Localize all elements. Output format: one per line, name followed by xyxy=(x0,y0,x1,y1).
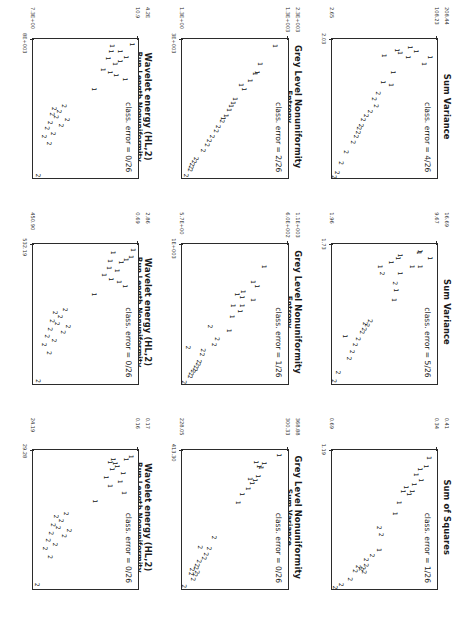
data-point-class-1: 1 xyxy=(110,251,116,255)
y-axis-max-label: 1.1E+003 xyxy=(295,212,301,237)
data-point-class-2: 2 xyxy=(197,545,203,549)
data-point-class-1: 1 xyxy=(381,54,387,58)
scatter-panel: Sum of Squares0.410.340.691.19class. err… xyxy=(305,415,454,620)
panel-title: Grey Level Nonuniformity xyxy=(293,415,303,620)
data-point-class-2: 2 xyxy=(181,584,187,588)
y-axis-min-label: 2.65 xyxy=(329,7,335,18)
data-point-class-1: 1 xyxy=(427,256,433,260)
panel-title: Grey Level Nonuniformity xyxy=(293,209,303,414)
data-point-class-1: 1 xyxy=(106,266,112,270)
data-point-class-2: 2 xyxy=(376,526,382,530)
data-point-class-1: 1 xyxy=(114,269,120,273)
plot-area: 0.410.340.691.19class. error = 1/2611111… xyxy=(331,449,438,590)
data-point-class-1: 1 xyxy=(390,70,396,74)
data-point-class-2: 2 xyxy=(353,135,359,139)
data-point-class-2: 2 xyxy=(379,272,385,276)
data-point-class-1: 1 xyxy=(257,62,263,66)
data-point-class-1: 1 xyxy=(272,44,278,48)
data-point-class-1: 1 xyxy=(130,248,136,252)
y-axis-max-label: 0.41 xyxy=(444,418,450,429)
data-point-class-1: 1 xyxy=(103,476,109,480)
data-point-class-1: 1 xyxy=(416,251,422,255)
classification-error-label: class. error = 0/26 xyxy=(274,513,283,583)
data-point-class-1: 1 xyxy=(388,260,394,264)
data-point-class-2: 2 xyxy=(206,547,212,551)
y-axis-tick xyxy=(287,447,288,451)
data-point-class-1: 1 xyxy=(238,83,244,87)
y-axis-max-label: 0.17 xyxy=(145,418,151,429)
y-axis-tick-label: 0.16 xyxy=(135,418,141,429)
data-point-class-2: 2 xyxy=(211,343,217,347)
figure-rotator: Sum Variance208.44108.232.652.03class. e… xyxy=(0,0,458,626)
data-point-class-2: 2 xyxy=(373,104,379,108)
data-point-class-1: 1 xyxy=(397,272,403,276)
data-point-class-2: 2 xyxy=(331,175,337,179)
data-point-class-2: 2 xyxy=(207,325,213,329)
y-axis-min-label: 1.3E+00 xyxy=(179,7,185,29)
data-point-class-1: 1 xyxy=(237,309,243,313)
data-point-class-2: 2 xyxy=(40,135,46,139)
data-point-class-1: 1 xyxy=(245,487,251,491)
plot-area: 0.170.1624.1929.28class. error = 0/26111… xyxy=(32,449,139,590)
data-point-class-2: 2 xyxy=(214,337,220,341)
x-axis-min-label: 1.73 xyxy=(321,238,327,249)
data-point-class-2: 2 xyxy=(53,115,59,119)
data-point-class-1: 1 xyxy=(99,68,105,72)
data-point-class-2: 2 xyxy=(62,308,68,312)
data-point-class-1: 1 xyxy=(393,288,399,292)
y-axis-tick xyxy=(287,36,288,40)
data-point-class-1: 1 xyxy=(276,453,282,457)
data-point-class-2: 2 xyxy=(392,281,398,285)
classification-error-label: class. error = 0/26 xyxy=(124,513,133,583)
data-point-class-1: 1 xyxy=(107,484,113,488)
data-point-class-2: 2 xyxy=(346,577,352,581)
scatter-panel: Grey Level Nonuniformity2.3E+0031.3E+003… xyxy=(155,4,304,209)
data-point-class-1: 1 xyxy=(229,315,235,319)
data-point-class-1: 1 xyxy=(105,57,111,61)
data-point-class-1: 1 xyxy=(117,480,123,484)
data-point-class-2: 2 xyxy=(213,129,219,133)
data-point-class-1: 1 xyxy=(91,87,97,91)
data-point-class-2: 2 xyxy=(46,142,52,146)
data-point-class-2: 2 xyxy=(60,534,66,538)
data-point-class-2: 2 xyxy=(34,583,40,587)
plot-area: 2.3E+0031.3E+0031.3E+003E+003class. erro… xyxy=(181,38,288,179)
data-point-class-1: 1 xyxy=(122,77,128,81)
y-axis-tick-label: 108.23 xyxy=(434,7,440,25)
y-axis-min-label: 0.69 xyxy=(329,418,335,429)
y-axis-min-label: 450.90 xyxy=(30,212,36,230)
data-point-class-1: 1 xyxy=(226,108,232,112)
panel-title: Sum Variance xyxy=(442,209,452,414)
data-point-class-1: 1 xyxy=(404,55,410,59)
y-axis-tick-label: 0.69 xyxy=(135,212,141,223)
x-axis-min-label: 532.19 xyxy=(22,238,28,256)
data-point-class-2: 2 xyxy=(63,512,69,516)
scatter-panel: Wavelet energy (HL,2)0.170.1624.1929.28c… xyxy=(6,415,155,620)
data-point-class-1: 1 xyxy=(107,70,113,74)
y-axis-max-label: 2.3E+003 xyxy=(295,7,301,32)
data-point-class-2: 2 xyxy=(362,322,368,326)
data-point-class-1: 1 xyxy=(121,491,127,495)
data-point-class-2: 2 xyxy=(352,343,358,347)
data-point-class-2: 2 xyxy=(199,352,205,356)
data-point-class-2: 2 xyxy=(47,327,53,331)
data-point-class-1: 1 xyxy=(253,460,259,464)
data-point-class-2: 2 xyxy=(42,547,48,551)
x-axis-min-label: 29.28 xyxy=(22,444,28,459)
data-point-class-2: 2 xyxy=(56,109,62,113)
data-point-class-2: 2 xyxy=(51,338,57,342)
y-axis-min-label: 1.96 xyxy=(329,212,335,223)
data-point-class-1: 1 xyxy=(247,477,253,481)
data-point-class-2: 2 xyxy=(47,555,53,559)
data-point-class-2: 2 xyxy=(47,121,53,125)
y-axis-min-label: 24.19 xyxy=(30,418,36,433)
data-point-class-1: 1 xyxy=(220,116,226,120)
data-point-class-1: 1 xyxy=(423,464,429,468)
y-axis-max-label: 368.88 xyxy=(295,418,301,436)
data-point-class-1: 1 xyxy=(117,50,123,54)
data-point-class-1: 1 xyxy=(400,489,406,493)
classification-error-label: class. error = 0/26 xyxy=(124,307,133,377)
data-point-class-1: 1 xyxy=(230,304,236,308)
x-axis-tick xyxy=(30,244,34,245)
data-point-class-1: 1 xyxy=(342,334,348,338)
